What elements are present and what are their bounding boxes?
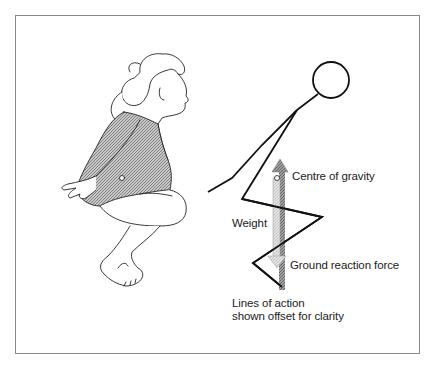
neck — [297, 94, 318, 110]
centre-of-gravity-marker — [275, 176, 280, 181]
diagram-canvas — [0, 0, 434, 370]
caption-line-1: Lines of action — [232, 297, 344, 310]
face — [158, 74, 188, 124]
head-circle — [313, 62, 349, 98]
woman-illustration — [62, 54, 188, 286]
weight-label: Weight — [232, 217, 267, 230]
centre-of-gravity-label: Centre of gravity — [292, 170, 375, 183]
caption: Lines of action shown offset for clarity — [232, 297, 344, 323]
lower-leg — [101, 226, 160, 286]
ground-reaction-force-label: Ground reaction force — [290, 259, 399, 272]
caption-line-2: shown offset for clarity — [232, 310, 344, 323]
